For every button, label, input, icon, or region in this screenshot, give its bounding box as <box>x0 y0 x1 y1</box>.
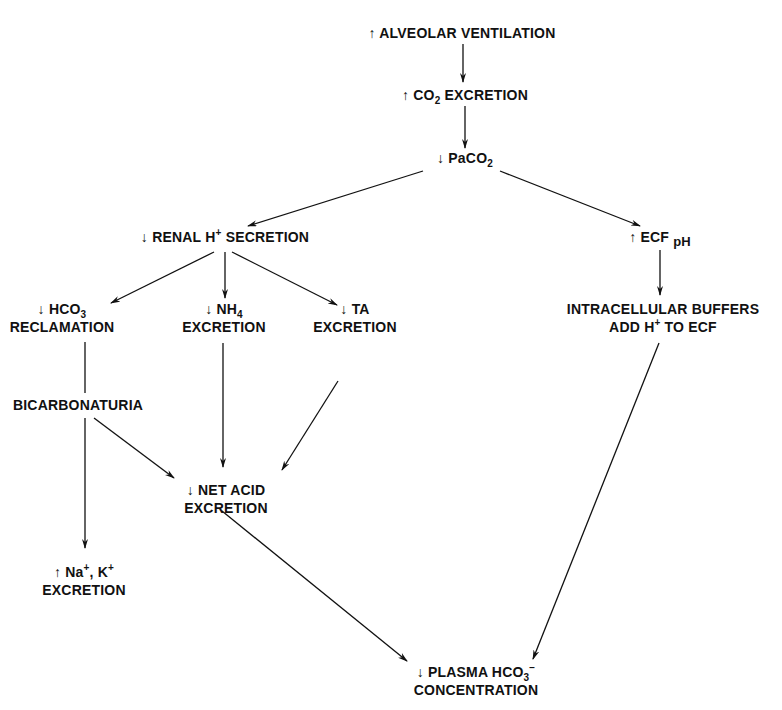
down-arrow-icon: ↓ <box>417 664 424 680</box>
flowchart-canvas: ↑ ALVEOLAR VENTILATION ↑ CO2 EXCRETION ↓… <box>0 0 782 710</box>
edge-renal-hco3 <box>111 252 214 303</box>
node-intracellular-buffers: INTRACELLULAR BUFFERS ADD H+ TO ECF <box>567 300 759 336</box>
down-arrow-icon: ↓ <box>205 301 212 317</box>
node-ecf-ph: ↑ ECF pH <box>629 228 691 246</box>
edge-bicarb-netacid <box>94 418 174 478</box>
node-bicarbonaturia: BICARBONATURIA <box>13 396 143 414</box>
node-renal-h-secretion: ↓ RENAL H+ SECRETION <box>141 228 309 246</box>
edge-buffers-plasma <box>533 343 659 659</box>
edge-paco2-renal <box>248 171 423 226</box>
edge-netacid-plasma <box>222 511 407 661</box>
down-arrow-icon: ↓ <box>38 301 45 317</box>
edge-renal-ta <box>232 252 337 305</box>
node-co2-excretion: ↑ CO2 EXCRETION <box>402 86 528 104</box>
up-arrow-icon: ↑ <box>54 564 61 580</box>
node-plasma-hco3-concentration: ↓ PLASMA HCO3− CONCENTRATION <box>414 663 538 699</box>
down-arrow-icon: ↓ <box>340 301 347 317</box>
up-arrow-icon: ↑ <box>369 25 376 41</box>
node-paco2: ↓ PaCO2 <box>437 149 493 167</box>
down-arrow-icon: ↓ <box>141 229 148 245</box>
down-arrow-icon: ↓ <box>187 482 194 498</box>
node-ta-excretion: ↓ TA EXCRETION <box>313 300 396 336</box>
edge-paco2-ecf <box>500 171 640 226</box>
node-nh4-excretion: ↓ NH4 EXCRETION <box>182 300 265 336</box>
node-na-k-excretion: ↑ Na+, K+ EXCRETION <box>42 563 125 599</box>
flowchart-edges <box>0 0 782 710</box>
up-arrow-icon: ↑ <box>629 229 636 245</box>
up-arrow-icon: ↑ <box>402 87 409 103</box>
down-arrow-icon: ↓ <box>437 150 444 166</box>
node-alveolar-ventilation: ↑ ALVEOLAR VENTILATION <box>369 24 556 42</box>
edge-ta-netacid <box>282 381 338 470</box>
node-net-acid-excretion: ↓ NET ACID EXCRETION <box>184 481 267 517</box>
node-hco3-reclamation: ↓ HCO3 RECLAMATION <box>10 300 115 336</box>
